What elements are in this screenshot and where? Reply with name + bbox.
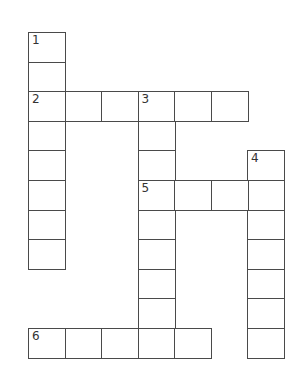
crossword-cell[interactable] bbox=[138, 210, 176, 241]
crossword-cell[interactable]: 1 bbox=[28, 32, 66, 63]
crossword-cell[interactable] bbox=[28, 150, 66, 181]
clue-number: 6 bbox=[32, 330, 40, 343]
crossword-cell[interactable] bbox=[211, 180, 249, 211]
clue-number: 1 bbox=[32, 34, 40, 47]
crossword-cell[interactable] bbox=[28, 180, 66, 211]
crossword-cell[interactable]: 5 bbox=[138, 180, 176, 211]
clue-number: 3 bbox=[142, 93, 150, 106]
crossword-cell[interactable] bbox=[174, 91, 212, 122]
crossword-cell[interactable] bbox=[28, 121, 66, 152]
clue-number: 5 bbox=[142, 182, 150, 195]
crossword-cell[interactable] bbox=[101, 328, 139, 359]
clue-number: 2 bbox=[32, 93, 40, 106]
crossword-cell[interactable] bbox=[138, 328, 176, 359]
crossword-grid: 123546 bbox=[0, 0, 291, 381]
crossword-cell[interactable] bbox=[247, 328, 285, 359]
crossword-cell[interactable] bbox=[101, 91, 139, 122]
crossword-cell[interactable] bbox=[247, 180, 285, 211]
crossword-cell[interactable] bbox=[28, 62, 66, 93]
crossword-cell[interactable] bbox=[65, 328, 103, 359]
crossword-cell[interactable] bbox=[28, 210, 66, 241]
clue-number: 4 bbox=[251, 152, 259, 165]
crossword-cell[interactable] bbox=[28, 239, 66, 270]
crossword-cell[interactable] bbox=[174, 180, 212, 211]
crossword-cell[interactable] bbox=[211, 91, 249, 122]
crossword-cell[interactable] bbox=[247, 210, 285, 241]
crossword-cell[interactable]: 2 bbox=[28, 91, 66, 122]
crossword-cell[interactable] bbox=[138, 150, 176, 181]
crossword-cell[interactable] bbox=[247, 239, 285, 270]
crossword-cell[interactable] bbox=[65, 91, 103, 122]
crossword-cell[interactable]: 4 bbox=[247, 150, 285, 181]
crossword-cell[interactable] bbox=[174, 328, 212, 359]
crossword-cell[interactable] bbox=[138, 121, 176, 152]
crossword-cell[interactable] bbox=[247, 269, 285, 300]
crossword-cell[interactable]: 6 bbox=[28, 328, 66, 359]
crossword-cell[interactable] bbox=[138, 269, 176, 300]
crossword-cell[interactable] bbox=[247, 298, 285, 329]
crossword-cell[interactable]: 3 bbox=[138, 91, 176, 122]
crossword-cell[interactable] bbox=[138, 239, 176, 270]
crossword-cell[interactable] bbox=[138, 298, 176, 329]
